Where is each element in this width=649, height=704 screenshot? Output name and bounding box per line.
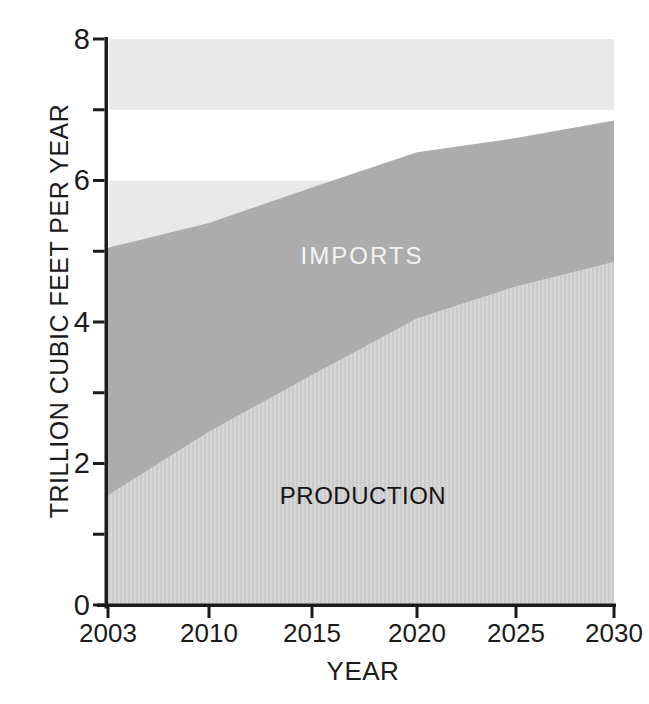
stacked-area-chart-figure: 8 6 4 2 0 2003 2010 2015 2020 2025 2030 … [0,0,649,704]
y-tick-8 [93,38,105,41]
background-band-7-8 [109,39,614,110]
x-tick-label-2010: 2010 [159,616,259,650]
y-tick-7 [93,108,105,111]
y-tick-3 [93,391,105,394]
imports-area-label: IMPORTS [262,240,462,272]
x-tick-label-2020: 2020 [367,616,467,650]
x-axis-line [97,604,616,608]
y-tick-0 [93,604,105,607]
x-tick-label-2030: 2030 [564,616,649,650]
y-tick-1 [93,533,105,536]
x-tick-label-2003: 2003 [58,616,158,650]
y-tick-4 [93,321,105,324]
production-area-label: PRODUCTION [263,480,463,512]
y-axis-line [105,37,109,609]
y-tick-6 [93,179,105,182]
x-tick-label-2025: 2025 [466,616,566,650]
chart-canvas [0,0,649,704]
y-axis-title: TRILLION CUBIC FEET PER YEAR [41,11,77,611]
x-tick-label-2015: 2015 [262,616,362,650]
y-tick-2 [93,462,105,465]
y-tick-5 [93,250,105,253]
x-axis-title: YEAR [293,654,433,688]
